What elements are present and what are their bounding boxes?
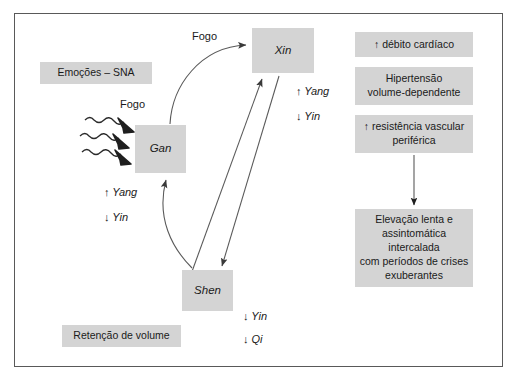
edge-label-fogo-gan: Fogo — [120, 98, 145, 110]
edge-label-yang-gan: ↑ Yang — [104, 186, 137, 198]
diagram-canvas: Xin Gan Shen Emoções – SNA Retenção de v… — [0, 0, 519, 385]
node-elevacao-line-2: assintomática intercalada — [355, 227, 473, 255]
node-debito-cardiaco[interactable]: ↑ débito cardíaco — [355, 32, 473, 57]
node-hipertensao-line-2: volume-dependente — [368, 86, 461, 100]
node-resistencia-vascular-periferica[interactable]: ↑ resistência vascular periférica — [355, 115, 473, 153]
node-elevacao-line-1: Elevação lenta e — [355, 213, 473, 227]
node-retencao-de-volume[interactable]: Retenção de volume — [62, 325, 181, 347]
node-emocoes-sna[interactable]: Emoções – SNA — [40, 62, 152, 84]
edge-label-yin-gan: ↓ Yin — [104, 211, 128, 223]
edge-label-yin-shen: ↓ Yin — [243, 310, 267, 322]
node-elevacao-line-3: com períodos de crises — [355, 255, 473, 269]
edge-label-qi-shen: ↓ Qi — [243, 333, 263, 345]
edge-label-yang-xin: ↑ Yang — [296, 85, 329, 97]
node-resistencia-line-1: ↑ resistência vascular — [364, 120, 464, 134]
node-gan[interactable]: Gan — [135, 125, 186, 173]
node-elevacao-line-4: exuberantes — [355, 269, 473, 283]
node-resistencia-line-2: periférica — [364, 134, 464, 148]
node-shen[interactable]: Shen — [182, 270, 233, 311]
node-hipertensao-line-1: Hipertensão — [368, 72, 461, 86]
edge-label-fogo-gan-xin: Fogo — [192, 30, 217, 42]
node-elevacao-lenta-assintomatica[interactable]: Elevação lenta e assintomática intercala… — [355, 209, 473, 287]
edge-label-yin-xin: ↓ Yin — [296, 110, 320, 122]
node-hipertensao-volume-dependente[interactable]: Hipertensão volume-dependente — [355, 67, 473, 105]
node-xin[interactable]: Xin — [252, 28, 314, 73]
